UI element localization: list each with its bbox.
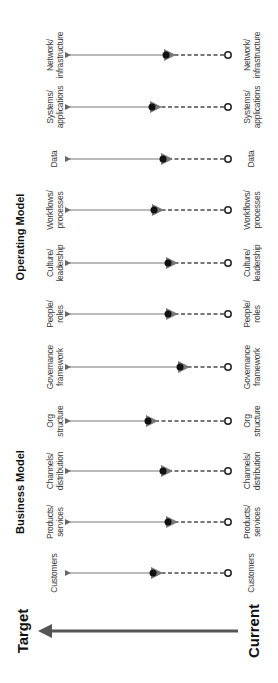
start-circle-people: [225, 311, 231, 317]
label-line: processes: [55, 190, 65, 229]
label-line: leadership: [252, 244, 262, 281]
row-label-right-culture: Culture/leadership: [243, 244, 262, 281]
label-line: framework: [252, 345, 262, 389]
start-circle-products: [225, 519, 231, 525]
row-label-right-data: Data: [247, 150, 257, 167]
target-arrowhead-icon: [38, 624, 52, 638]
row-label-right-network: Network/infrastructure: [243, 32, 262, 79]
row-label-left-products: Products/services: [46, 505, 65, 539]
label-line: Data: [247, 150, 257, 167]
label-line: structure: [55, 405, 65, 436]
start-circle-network: [225, 52, 231, 58]
start-circle-workflows: [225, 207, 231, 213]
row-label-left-org: Orgstructure: [46, 405, 65, 436]
label-line: services: [55, 505, 65, 539]
label-line: roles: [55, 300, 65, 327]
start-circle-systems: [225, 104, 231, 110]
label-line: Customers: [50, 553, 60, 592]
row-label-left-workflows: Workflows/processes: [46, 190, 65, 229]
current-position-dot-network: [163, 52, 170, 59]
row-label-right-products: Products/services: [243, 505, 262, 539]
label-line: processes: [252, 190, 262, 229]
current-position-dot-customers: [150, 570, 157, 577]
row-label-left-systems: Systems/applications: [46, 86, 65, 129]
business-model-heading: Business Model: [14, 450, 26, 534]
start-circle-customers: [225, 570, 231, 576]
current-position-dot-governance: [177, 364, 184, 371]
row-label-right-org: Orgstructure: [243, 405, 262, 436]
label-line: services: [252, 505, 262, 539]
row-label-left-network: Network/infrastructure: [46, 32, 65, 79]
operating-model-heading: Operating Model: [14, 194, 26, 281]
label-line: applications: [55, 86, 65, 129]
current-position-dot-people: [165, 311, 172, 318]
current-position-dot-systems: [149, 104, 156, 111]
current-position-dot-data: [160, 156, 167, 163]
start-circle-culture: [225, 260, 231, 266]
current-position-dot-workflows: [151, 207, 158, 214]
row-label-right-people: People/roles: [243, 300, 262, 327]
row-label-left-customers: Customers: [50, 553, 60, 592]
diagram-canvas: [0, 0, 278, 683]
label-line: leadership: [55, 244, 65, 281]
row-label-right-governance: Governanceframework: [243, 345, 262, 389]
row-label-left-people: People/roles: [46, 300, 65, 327]
label-line: roles: [252, 300, 262, 327]
row-label-left-culture: Culture/leadership: [46, 244, 65, 281]
label-line: infrastructure: [252, 32, 262, 79]
row-label-right-systems: Systems/applications: [243, 86, 262, 129]
current-position-dot-channels: [160, 468, 167, 475]
row-label-right-workflows: Workflows/processes: [243, 190, 262, 229]
label-line: distribution: [55, 452, 65, 491]
label-line: structure: [252, 405, 262, 436]
row-label-right-channels: Channels/distribution: [243, 452, 262, 491]
label-line: framework: [55, 345, 65, 389]
row-label-left-governance: Governanceframework: [46, 345, 65, 389]
row-label-right-customers: Customers: [247, 553, 257, 592]
row-label-left-data: Data: [50, 150, 60, 167]
target-label: Target: [14, 609, 31, 654]
label-line: Data: [50, 150, 60, 167]
current-position-dot-org: [145, 418, 152, 425]
current-position-dot-products: [165, 519, 172, 526]
label-line: infrastructure: [55, 32, 65, 79]
label-line: Customers: [247, 553, 257, 592]
current-position-dot-culture: [165, 260, 172, 267]
start-circle-org: [225, 418, 231, 424]
start-circle-data: [225, 156, 231, 162]
label-line: distribution: [252, 452, 262, 491]
label-line: applications: [252, 86, 262, 129]
current-label: Current: [245, 604, 262, 658]
row-label-left-channels: Channels/distribution: [46, 452, 65, 491]
start-circle-channels: [225, 468, 231, 474]
start-circle-governance: [225, 364, 231, 370]
